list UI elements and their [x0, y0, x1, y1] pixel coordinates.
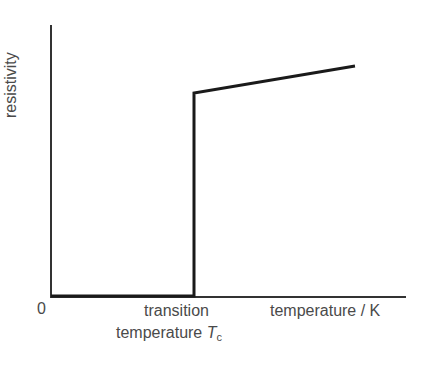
tc-symbol: T [207, 324, 217, 341]
transition-label-line1: transition [144, 302, 209, 320]
resistivity-curve [51, 66, 355, 296]
x-axis-label: temperature / K [270, 302, 380, 320]
origin-label: 0 [37, 300, 46, 318]
tc-subscript: c [217, 331, 223, 343]
transition-temperature-text: temperature [116, 324, 207, 341]
y-axis-label: resistivity [2, 52, 20, 118]
transition-label-line2: temperature Tc [116, 324, 222, 343]
